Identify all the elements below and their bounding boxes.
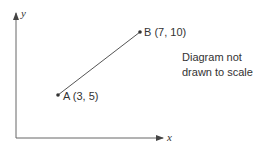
point-b: [138, 30, 142, 34]
segment-ab: [58, 32, 140, 95]
x-axis-label: x: [167, 132, 172, 143]
y-axis-label: y: [21, 8, 26, 19]
scale-note: Diagram not drawn to scale: [182, 50, 253, 80]
scale-note-line2: drawn to scale: [182, 65, 253, 80]
point-a-label: A (3, 5): [63, 91, 98, 102]
scale-note-line1: Diagram not: [182, 50, 253, 65]
point-a: [56, 93, 60, 97]
point-b-label: B (7, 10): [144, 27, 186, 38]
